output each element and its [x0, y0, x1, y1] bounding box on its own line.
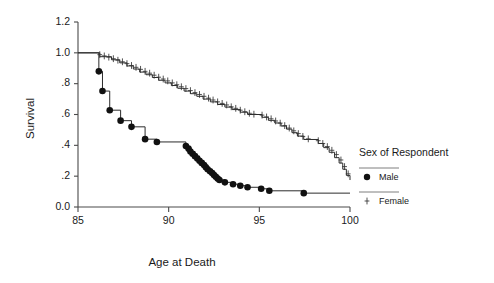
y-tick-label: 1.0 [55, 46, 70, 58]
chart-background [0, 0, 494, 283]
marker-dot-male [99, 88, 106, 95]
x-tick-label: 100 [341, 214, 359, 226]
marker-dot-male [222, 179, 229, 186]
legend-label-female: Female [379, 196, 409, 206]
y-tick-label: .6 [61, 107, 70, 119]
marker-dot-male [244, 184, 251, 191]
marker-dot-male [96, 68, 103, 75]
x-tick-label: 85 [72, 214, 84, 226]
marker-dot-male [230, 181, 237, 188]
y-tick-label: .4 [61, 138, 70, 150]
marker-dot-male [300, 190, 307, 197]
marker-dot-male [266, 188, 273, 195]
survival-chart: 0.0.2.4.6.81.01.2859095100Age at DeathSu… [0, 0, 494, 283]
y-tick-label: .2 [61, 169, 70, 181]
marker-dot-male [128, 124, 135, 131]
x-tick-label: 95 [253, 214, 265, 226]
marker-dot-male [237, 182, 244, 189]
y-tick-label: 1.2 [55, 15, 70, 27]
legend-marker-dot-icon [364, 174, 370, 180]
legend-label-male: Male [379, 172, 399, 182]
marker-dot-male [142, 136, 149, 143]
marker-dot-male [106, 107, 113, 114]
x-tick-label: 90 [163, 214, 175, 226]
marker-dot-male [117, 117, 124, 124]
marker-dot-male [258, 186, 265, 193]
y-tick-label: 0.0 [55, 200, 70, 212]
y-tick-label: .8 [61, 76, 70, 88]
legend-title: Sex of Respondent [359, 146, 448, 158]
marker-dot-male [154, 139, 161, 146]
y-axis-title: Survival [24, 98, 36, 139]
x-axis-title: Age at Death [148, 256, 215, 268]
